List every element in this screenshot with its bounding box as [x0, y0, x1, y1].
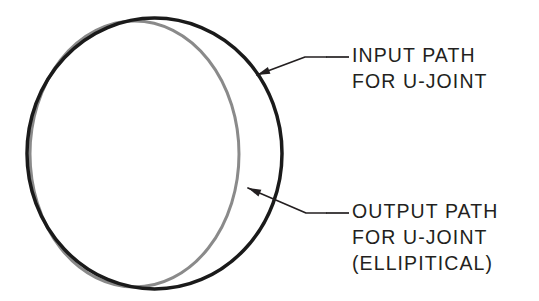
diagram-canvas: INPUT PATH FOR U-JOINT OUTPUT PATH FOR U… — [0, 0, 539, 301]
output-label-line-3: (ELLIPITICAL) — [352, 252, 493, 274]
output-callout-label: OUTPUT PATH FOR U-JOINT (ELLIPITICAL) — [352, 200, 498, 274]
u-joint-path-diagram: INPUT PATH FOR U-JOINT OUTPUT PATH FOR U… — [0, 0, 539, 301]
output-label-line-2: FOR U-JOINT — [352, 226, 488, 248]
output-label-line-1: OUTPUT PATH — [352, 200, 498, 222]
input-label-line-1: INPUT PATH — [352, 44, 476, 66]
input-label-line-2: FOR U-JOINT — [352, 70, 488, 92]
